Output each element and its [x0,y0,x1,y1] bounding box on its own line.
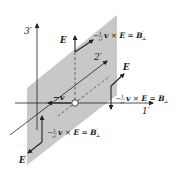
axis-2-label: 2′ [93,52,102,62]
origin-charge-icon [72,100,78,106]
svg-text:1: 1 [99,31,102,36]
svg-text:c²: c² [121,100,125,105]
top-b-label: − 1 c² v × E = B′⊥ [93,30,147,42]
svg-text:v × E = B′⊥: v × E = B′⊥ [58,127,101,138]
axis-3-label: 3′ [24,26,32,36]
bottom-left-e-label: E [18,155,26,165]
svg-text:1: 1 [121,94,124,99]
field-transformation-diagram: 3′ 2′ 1′ −v E E E − 1 c² v × E = B′⊥ − 1… [0,0,196,180]
svg-text:v × E = B′⊥: v × E = B′⊥ [126,93,169,104]
svg-text:c²: c² [99,37,103,42]
axis-1-label: 1′ [142,106,150,116]
minus-v-label: −v [53,92,65,102]
top-e-label: E [59,35,67,45]
right-b-label: − 1 c² v × E = B′⊥ [115,93,169,105]
svg-text:1: 1 [53,128,56,133]
right-e-label: E [122,62,130,72]
svg-text:c²: c² [53,134,57,139]
bottom-left-b-label: − 1 c² v × E = B′⊥ [47,127,101,139]
svg-text:v × E = B′⊥: v × E = B′⊥ [104,30,147,41]
